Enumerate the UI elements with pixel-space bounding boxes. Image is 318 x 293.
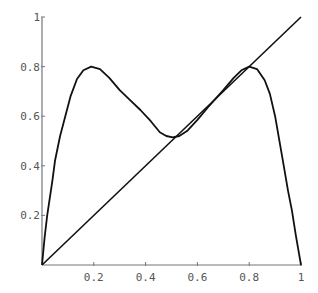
y-ticks: 0.20.40.60.81 [20, 11, 45, 222]
y-tick-label: 0.4 [20, 160, 40, 173]
x-tick-label: 0.8 [239, 271, 259, 284]
x-tick-label: 0.4 [136, 271, 156, 284]
x-tick-label: 0.2 [84, 271, 104, 284]
chart-plot: 0.20.40.60.81 0.20.40.60.81 [0, 0, 318, 293]
y-tick-label: 0.8 [20, 61, 40, 74]
identity-line [42, 17, 301, 265]
y-tick-label: 0.2 [20, 209, 40, 222]
x-tick-label: 0.6 [187, 271, 207, 284]
series-group [42, 17, 301, 265]
function-curve [42, 67, 301, 265]
y-tick-label: 0.6 [20, 110, 40, 123]
y-tick-label: 1 [33, 11, 40, 24]
x-tick-label: 1 [298, 271, 305, 284]
